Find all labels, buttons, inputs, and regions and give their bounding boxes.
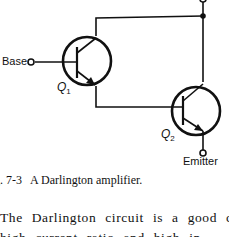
darlington-circuit-figure: Base Q1 Q2 Emitter [0,0,229,165]
emitter-label: Emitter [183,155,218,167]
circuit-diagram [0,0,229,165]
q1-subscript: 1 [66,87,70,96]
figure-number: g. 7-3 [0,173,22,187]
base-label: Base [2,55,27,67]
q1-label: Q1 [57,80,71,96]
q2-subscript: 2 [170,134,174,143]
base-terminal-icon [28,59,34,65]
figure-title: A Darlington amplifier. [30,173,142,187]
body-paragraph-line-2: high current ratio and high in [0,230,201,237]
q2-label: Q2 [161,127,175,143]
q1-letter: Q [57,80,66,94]
collector-terminal-icon [200,0,206,2]
q2-letter: Q [161,127,170,141]
figure-caption: g. 7-3A Darlington amplifier. [0,173,142,188]
body-paragraph-line-1: The Darlington circuit is a good cho [0,210,229,226]
